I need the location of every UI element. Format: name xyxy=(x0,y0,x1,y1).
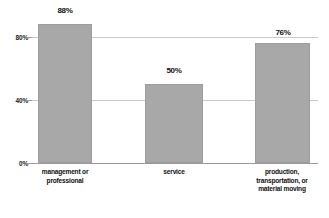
bar-production-transportation-material-moving xyxy=(255,43,310,163)
value-label-management-or-professional: 88% xyxy=(30,6,100,15)
y-tick-label-0: 0% xyxy=(0,160,28,167)
category-line: material moving xyxy=(235,185,329,194)
category-line: production, xyxy=(235,168,329,177)
plot-area xyxy=(32,18,318,163)
bar-management-or-professional xyxy=(38,24,92,163)
y-tick-mark-40 xyxy=(26,100,32,101)
category-line: professional xyxy=(18,177,112,186)
category-label-management-or-professional: management or professional xyxy=(18,168,112,185)
value-label-service: 50% xyxy=(139,66,209,75)
bar-chart: 80% 40% 0% 88% 50% 76% management or pro… xyxy=(0,0,329,218)
category-label-service: service xyxy=(127,168,221,177)
y-tick-label-40: 40% xyxy=(0,97,28,104)
category-label-production-transportation-material-moving: production, transportation, or material … xyxy=(235,168,329,194)
category-line: transportation, or xyxy=(235,177,329,186)
value-label-production-transportation-material-moving: 76% xyxy=(248,28,318,37)
y-tick-label-80: 80% xyxy=(0,34,28,41)
bar-service xyxy=(145,84,203,163)
axis-baseline xyxy=(32,163,318,164)
category-line: service xyxy=(127,168,221,177)
category-line: management or xyxy=(18,168,112,177)
y-tick-mark-80 xyxy=(26,37,32,38)
y-tick-mark-0 xyxy=(26,163,32,164)
